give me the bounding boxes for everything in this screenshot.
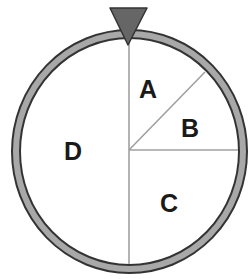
section-label-d: D — [64, 137, 82, 165]
section-label-c: C — [160, 189, 178, 217]
section-label-a: A — [139, 75, 157, 103]
section-label-b: B — [181, 114, 199, 142]
spinner-diagram: A B C D — [0, 0, 250, 279]
